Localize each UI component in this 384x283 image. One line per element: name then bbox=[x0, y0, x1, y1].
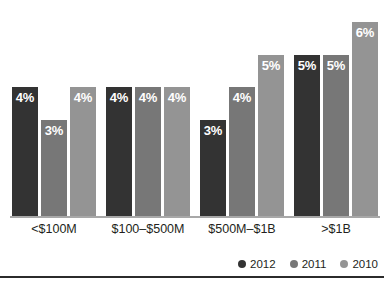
bottom-divider bbox=[0, 276, 384, 278]
legend-dot-icon bbox=[340, 260, 348, 268]
bar[interactable]: 4% bbox=[70, 87, 96, 217]
bar[interactable]: 5% bbox=[294, 55, 320, 217]
bar[interactable]: 4% bbox=[106, 87, 132, 217]
bar-value-label: 4% bbox=[164, 91, 190, 105]
bar[interactable]: 4% bbox=[229, 87, 255, 217]
bar-value-label: 4% bbox=[70, 91, 96, 105]
x-axis-label: $500M–$1B bbox=[200, 221, 284, 237]
legend-item[interactable]: 2010 bbox=[340, 258, 378, 270]
bar[interactable]: 4% bbox=[12, 87, 38, 217]
bar-group: 5%5%6% bbox=[294, 6, 378, 217]
bar-value-label: 5% bbox=[258, 59, 284, 73]
bar[interactable]: 4% bbox=[164, 87, 190, 217]
bar-value-label: 4% bbox=[12, 91, 38, 105]
x-axis-category-labels: <$100M$100–$500M$500M–$1B>$1B bbox=[12, 221, 378, 241]
bar[interactable]: 5% bbox=[323, 55, 349, 217]
legend-item[interactable]: 2012 bbox=[238, 258, 276, 270]
bar-group: 4%3%4% bbox=[12, 6, 96, 217]
x-axis-label: <$100M bbox=[12, 221, 96, 237]
legend-label: 2011 bbox=[302, 258, 327, 270]
bar-value-label: 3% bbox=[41, 124, 67, 138]
bar[interactable]: 6% bbox=[352, 22, 378, 217]
chart-legend: 201220112010 bbox=[238, 258, 378, 270]
bar-group: 3%4%5% bbox=[200, 6, 284, 217]
legend-label: 2012 bbox=[250, 258, 276, 270]
bar-value-label: 4% bbox=[229, 91, 255, 105]
bar[interactable]: 5% bbox=[258, 55, 284, 217]
legend-dot-icon bbox=[290, 260, 298, 268]
bar-value-label: 4% bbox=[106, 91, 132, 105]
legend-dot-icon bbox=[238, 260, 246, 268]
bar-value-label: 3% bbox=[200, 124, 226, 138]
x-axis-baseline bbox=[10, 216, 380, 218]
bar-value-label: 5% bbox=[294, 59, 320, 73]
bar-value-label: 6% bbox=[352, 26, 378, 40]
bar-value-label: 5% bbox=[323, 59, 349, 73]
bar[interactable]: 3% bbox=[41, 120, 67, 217]
bar[interactable]: 4% bbox=[135, 87, 161, 217]
bar-group: 4%4%4% bbox=[106, 6, 190, 217]
legend-label: 2010 bbox=[352, 258, 378, 270]
plot-area: 4%3%4%4%4%4%3%4%5%5%5%6% bbox=[12, 6, 378, 217]
x-axis-label: >$1B bbox=[294, 221, 378, 237]
bar[interactable]: 3% bbox=[200, 120, 226, 217]
legend-item[interactable]: 2011 bbox=[290, 258, 327, 270]
bar-chart: 4%3%4%4%4%4%3%4%5%5%5%6% <$100M$100–$500… bbox=[0, 0, 384, 283]
bar-value-label: 4% bbox=[135, 91, 161, 105]
x-axis-label: $100–$500M bbox=[106, 221, 190, 237]
